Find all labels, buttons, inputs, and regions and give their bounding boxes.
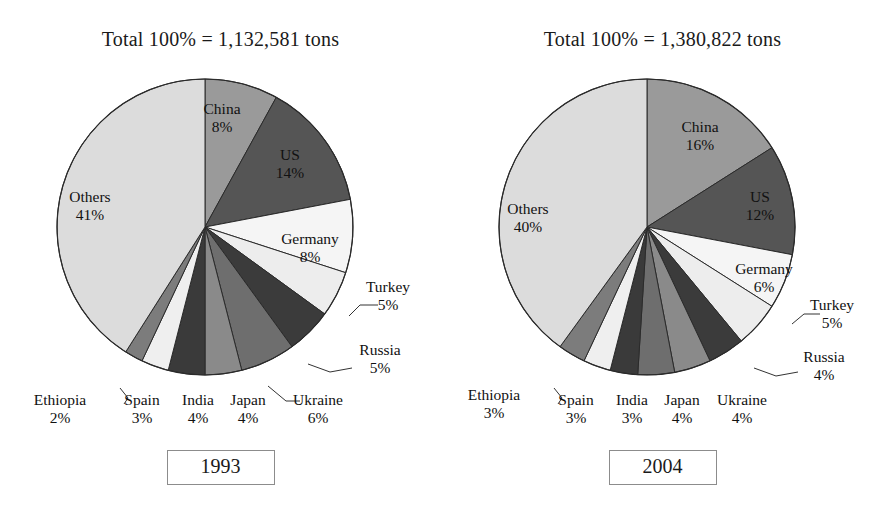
pie-label-name: Ethiopia xyxy=(34,391,87,408)
pie-label-name: Ukraine xyxy=(717,391,767,408)
pie-label-percent: 8% xyxy=(212,118,233,135)
pie-chart-right: China16%US12%Germany6%Turkey5%Russia4%Uk… xyxy=(442,52,883,452)
pie-label-name: China xyxy=(681,118,718,135)
pie-label-percent: 5% xyxy=(378,296,399,313)
pie-label-percent: 3% xyxy=(566,409,587,426)
pie-label-name: Ukraine xyxy=(293,391,343,408)
pie-label-ukraine: Ukraine4% xyxy=(717,391,767,426)
pie-label-name: Russia xyxy=(803,348,844,365)
pie-label-percent: 4% xyxy=(814,366,835,383)
pie-label-name: US xyxy=(280,146,300,163)
pie-label-name: Russia xyxy=(359,341,400,358)
panel-title-right: Total 100% = 1,380,822 tons xyxy=(442,28,883,51)
pie-label-name: Turkey xyxy=(810,296,854,313)
panel-title-left: Total 100% = 1,132,581 tons xyxy=(0,28,441,51)
pie-label-percent: 4% xyxy=(238,409,259,426)
pie-slices xyxy=(499,79,795,375)
pie-label-name: Others xyxy=(69,188,110,205)
year-box-right: 2004 xyxy=(609,450,717,485)
pie-label-name: Spain xyxy=(558,391,594,408)
pie-label-name: Turkey xyxy=(366,278,410,295)
pie-label-turkey: Turkey5% xyxy=(366,278,410,313)
pie-label-russia: Russia5% xyxy=(359,341,400,376)
pie-label-name: Ethiopia xyxy=(468,386,521,403)
pie-chart-left: China8%US14%Germany8%Turkey5%Russia5%Ukr… xyxy=(0,52,441,452)
pie-svg-left: China8%US14%Germany8%Turkey5%Russia5%Ukr… xyxy=(0,52,441,452)
pie-label-russia: Russia4% xyxy=(803,348,844,383)
pie-label-percent: 3% xyxy=(484,404,505,421)
pie-label-name: Spain xyxy=(124,391,160,408)
pie-label-name: China xyxy=(203,100,240,117)
pie-label-india: India4% xyxy=(182,391,214,426)
year-box-left: 1993 xyxy=(167,450,275,485)
pie-label-percent: 6% xyxy=(308,409,329,426)
pie-label-percent: 14% xyxy=(276,164,305,181)
leader-line-russia xyxy=(308,364,352,372)
pie-label-percent: 41% xyxy=(76,206,105,223)
pie-label-india: India3% xyxy=(616,391,648,426)
pie-label-percent: 2% xyxy=(50,409,71,426)
pie-label-name: Japan xyxy=(664,391,700,408)
leader-line-russia xyxy=(754,368,798,376)
pie-label-japan: Japan4% xyxy=(664,391,700,426)
pie-label-percent: 3% xyxy=(132,409,153,426)
pie-label-percent: 5% xyxy=(370,359,391,376)
leader-line-turkey xyxy=(792,314,820,324)
pie-label-percent: 16% xyxy=(686,136,715,153)
pie-label-name: Others xyxy=(507,200,548,217)
pie-label-name: Germany xyxy=(735,260,793,277)
pie-chart-figure: Total 100% = 1,132,581 tons China8%US14%… xyxy=(0,0,883,523)
pie-label-percent: 4% xyxy=(188,409,209,426)
pie-label-percent: 3% xyxy=(622,409,643,426)
pie-label-spain: Spain3% xyxy=(124,391,160,426)
pie-label-percent: 4% xyxy=(732,409,753,426)
pie-label-percent: 4% xyxy=(672,409,693,426)
pie-label-spain: Spain3% xyxy=(558,391,594,426)
panel-2004: Total 100% = 1,380,822 tons China16%US12… xyxy=(442,0,883,523)
pie-label-percent: 5% xyxy=(822,314,843,331)
pie-svg-right: China16%US12%Germany6%Turkey5%Russia4%Uk… xyxy=(442,52,883,452)
pie-label-percent: 40% xyxy=(514,218,543,235)
pie-label-name: India xyxy=(182,391,214,408)
pie-label-name: India xyxy=(616,391,648,408)
pie-label-china: China16% xyxy=(681,118,718,153)
pie-label-japan: Japan4% xyxy=(230,391,266,426)
pie-label-percent: 12% xyxy=(746,206,775,223)
pie-label-name: Japan xyxy=(230,391,266,408)
pie-label-ukraine: Ukraine6% xyxy=(293,391,343,426)
pie-label-name: US xyxy=(750,188,770,205)
pie-slices xyxy=(57,79,353,375)
pie-label-ethiopia: Ethiopia3% xyxy=(468,386,521,421)
pie-label-name: Germany xyxy=(281,230,339,247)
panel-1993: Total 100% = 1,132,581 tons China8%US14%… xyxy=(0,0,441,523)
leader-line-turkey xyxy=(349,305,378,316)
pie-label-percent: 6% xyxy=(754,278,775,295)
pie-label-ethiopia: Ethiopia2% xyxy=(34,391,87,426)
pie-label-percent: 8% xyxy=(300,248,321,265)
